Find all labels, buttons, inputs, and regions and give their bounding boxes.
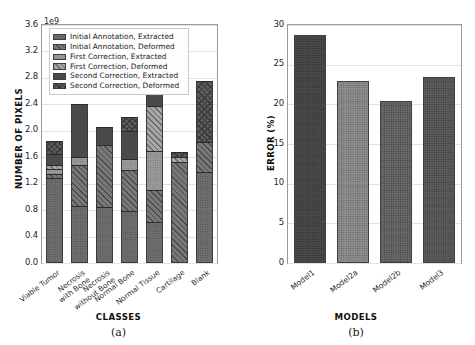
bar-segment[interactable]: [196, 172, 213, 263]
legend-item[interactable]: Initial Annotation, Extracted: [53, 33, 184, 42]
bar-segment[interactable]: [96, 145, 113, 208]
legend-label: Second Correction, Extracted: [70, 72, 178, 80]
plot-area-b: [287, 24, 462, 264]
bar-segment[interactable]: [121, 211, 138, 263]
bar-segment[interactable]: [146, 222, 163, 263]
legend-label: Initial Annotation, Extracted: [70, 33, 174, 41]
y-tick-label: 30: [260, 20, 284, 29]
bar-segment[interactable]: [146, 151, 163, 190]
legend-item[interactable]: Second Correction, Deformed: [53, 82, 184, 91]
bar-segment[interactable]: [46, 154, 63, 165]
legend-swatch-icon: [53, 54, 66, 60]
y-tick-label: 20: [260, 99, 284, 108]
legend-swatch-icon: [53, 83, 66, 89]
y-tick-label: 2.8: [10, 72, 38, 81]
legend-item[interactable]: Second Correction, Extracted: [53, 72, 184, 81]
y-tick-label: 1.6: [10, 152, 38, 161]
bar-segment[interactable]: [121, 170, 138, 211]
legend-item[interactable]: First Correction, Extracted: [53, 52, 184, 61]
y-tick-label: 2.4: [10, 99, 38, 108]
x-axis-title-b: MODELS: [237, 312, 475, 322]
bar-segment[interactable]: [146, 190, 163, 222]
y-axis-title-a: NUMBER OF PIXELS: [14, 97, 24, 189]
subplot-a: 1e9 NUMBER OF PIXELS 0.00.40.81.21.62.02…: [0, 0, 237, 345]
subplot-caption-a: (a): [0, 326, 237, 339]
subplot-b: ERROR (%) 051015202530 Model1Model2aMode…: [237, 0, 475, 345]
bar-segment[interactable]: [121, 117, 138, 131]
bar-segment[interactable]: [196, 142, 213, 172]
bar-group-b: [288, 25, 461, 263]
bar-segment[interactable]: [96, 127, 113, 145]
subplot-caption-b: (b): [237, 326, 475, 339]
legend-swatch-icon: [53, 34, 66, 40]
y-tick-label: 0.4: [10, 231, 38, 240]
stacked-bar[interactable]: [196, 25, 213, 263]
y-tick-label: 2.0: [10, 125, 38, 134]
y-tick-label: 0: [260, 258, 284, 267]
bar-segment[interactable]: [171, 162, 188, 263]
bar-segment[interactable]: [46, 165, 63, 169]
bar-segment[interactable]: [46, 141, 63, 154]
y-tick-label: 0.0: [10, 258, 38, 267]
legend-label: First Correction, Deformed: [70, 63, 168, 71]
bar-segment[interactable]: [121, 159, 138, 171]
legend-swatch-icon: [53, 63, 66, 69]
legend-label: First Correction, Extracted: [70, 53, 167, 61]
bar-segment[interactable]: [71, 104, 88, 156]
bar-segment[interactable]: [71, 157, 88, 166]
legend-swatch-icon: [53, 44, 66, 50]
gridline: [42, 263, 217, 264]
y-tick-label: 10: [260, 178, 284, 187]
legend-a: Initial Annotation, ExtractedInitial Ann…: [49, 28, 189, 95]
bar-segment[interactable]: [121, 131, 138, 159]
legend-item[interactable]: First Correction, Deformed: [53, 62, 184, 71]
bar-segment[interactable]: [96, 207, 113, 263]
gridline: [288, 263, 461, 264]
bar-segment[interactable]: [146, 106, 163, 152]
figure-root: 1e9 NUMBER OF PIXELS 0.00.40.81.21.62.02…: [0, 0, 475, 345]
y-tick-label: 1.2: [10, 178, 38, 187]
y-tick-label: 3.6: [10, 20, 38, 29]
y-tick-label: 3.2: [10, 46, 38, 55]
bar-segment[interactable]: [46, 174, 63, 177]
bar-segment[interactable]: [171, 152, 188, 157]
bar-segment[interactable]: [71, 206, 88, 263]
bar[interactable]: [337, 81, 369, 263]
legend-swatch-icon: [53, 73, 66, 79]
legend-label: Second Correction, Deformed: [70, 82, 179, 90]
y-tick-label: 15: [260, 139, 284, 148]
y-tick-label: 5: [260, 218, 284, 227]
legend-item[interactable]: Initial Annotation, Deformed: [53, 42, 184, 51]
y-tick-label: 25: [260, 59, 284, 68]
bar-segment[interactable]: [71, 165, 88, 206]
bar-segment[interactable]: [196, 81, 213, 142]
bar-segment[interactable]: [171, 157, 188, 162]
bar[interactable]: [380, 101, 412, 263]
bar-segment[interactable]: [46, 178, 63, 263]
bar-segment[interactable]: [46, 169, 63, 174]
bar[interactable]: [423, 77, 455, 263]
y-tick-label: 0.8: [10, 205, 38, 214]
x-axis-title-a: CLASSES: [0, 312, 237, 322]
bar[interactable]: [294, 35, 326, 263]
legend-label: Initial Annotation, Deformed: [70, 43, 175, 51]
